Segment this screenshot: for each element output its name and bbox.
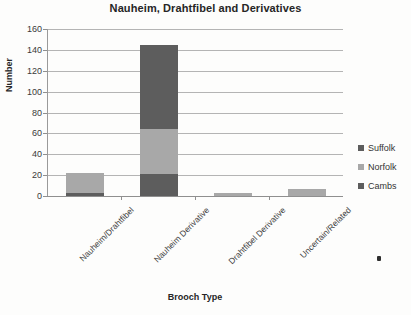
legend-item[interactable]: Suffolk <box>358 138 410 157</box>
scan-artifact-speck <box>377 256 381 261</box>
y-tick-label-120: 120 <box>14 66 42 76</box>
legend-swatch-icon <box>358 164 364 170</box>
legend-swatch-icon <box>358 145 364 151</box>
bar-segment-norfolk[interactable] <box>66 173 104 193</box>
legend-item[interactable]: Norfolk <box>358 157 410 176</box>
bar-group[interactable] <box>140 29 178 196</box>
bar-group[interactable] <box>288 29 326 196</box>
plot-area <box>47 29 343 196</box>
legend-label: Suffolk <box>368 143 395 153</box>
bar-segment-cambs[interactable] <box>140 174 178 196</box>
x-tick-mark <box>195 196 196 200</box>
y-tick-label-100: 100 <box>14 87 42 97</box>
bar-segment-norfolk[interactable] <box>288 189 326 196</box>
bar-segment-norfolk[interactable] <box>140 129 178 174</box>
legend-item[interactable]: Cambs <box>358 176 410 195</box>
chart-container: Nauheim, Drahtfibel and Derivatives Numb… <box>0 0 411 315</box>
x-tick-mark <box>269 196 270 200</box>
y-tick-label-80: 80 <box>14 108 42 118</box>
x-tick-mark <box>121 196 122 200</box>
y-tick-label-60: 60 <box>14 128 42 138</box>
y-axis-title: Number <box>4 58 14 92</box>
legend-label: Norfolk <box>368 162 397 172</box>
chart-legend: SuffolkNorfolkCambs <box>358 138 410 195</box>
legend-swatch-icon <box>358 183 364 189</box>
x-axis-title: Brooch Type <box>0 292 390 302</box>
x-tick-label: Nauheim/Drahtfibel <box>77 205 136 264</box>
bar-segment-suffolk[interactable] <box>140 45 178 130</box>
x-tick-label: Nauheim Derivative <box>152 205 212 265</box>
bar-group[interactable] <box>66 29 104 196</box>
y-tick-label-20: 20 <box>14 170 42 180</box>
x-tick-label: Drahtfibel Derivative <box>226 205 287 266</box>
x-tick-label: Uncertain/Related <box>298 205 353 260</box>
bar-group[interactable] <box>214 29 252 196</box>
y-tick-label-40: 40 <box>14 149 42 159</box>
y-tick-label-0: 0 <box>14 191 42 201</box>
legend-label: Cambs <box>368 181 397 191</box>
bars-layer <box>48 29 343 196</box>
y-tick-label-140: 140 <box>14 45 42 55</box>
chart-title: Nauheim, Drahtfibel and Derivatives <box>0 2 411 14</box>
y-tick-label-160: 160 <box>14 24 42 34</box>
